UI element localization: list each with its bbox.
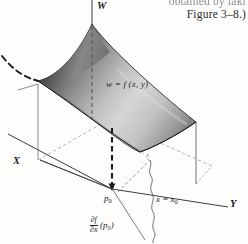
front-base-left-edge — [40, 160, 112, 189]
plane-x0-base: x = x — [156, 194, 175, 204]
caption-line-1: obtained by taki — [169, 0, 246, 8]
partial-derivative-numerator: ∂f — [90, 216, 98, 224]
partial-derivative-figure — [0, 0, 248, 244]
partial-derivative-fraction: ∂f ∂x — [90, 216, 98, 234]
surface-equation-label: w = f (x, y) — [106, 79, 148, 89]
x-axis-line — [8, 134, 112, 189]
right-drop-line — [196, 122, 212, 184]
partial-derivative-argument: (p₀) — [100, 220, 114, 230]
left-wall-top-edge — [18, 84, 38, 90]
partial-derivative-formula: ∂f ∂x (p₀) — [90, 216, 114, 234]
p0-subscript: 0 — [109, 197, 112, 204]
x-axis — [8, 134, 112, 189]
y-axis — [40, 160, 228, 207]
cutting-plane-region — [112, 158, 196, 240]
plane-x0-label: x = x0 — [156, 194, 178, 204]
partial-derivative-denominator: ∂x — [90, 226, 98, 234]
front-base-edges — [40, 160, 112, 189]
w-axis-label: W — [97, 0, 107, 11]
figure-page: obtained by taki Figure 3–8.) W X Y w = … — [0, 0, 248, 244]
y-axis-label: Y — [230, 198, 237, 209]
base-plane-back-left-edge — [38, 120, 108, 160]
cutting-plane-torn-right-edge — [150, 160, 155, 243]
x-axis-label: X — [13, 155, 20, 166]
caption-block: obtained by taki Figure 3–8.) — [169, 0, 246, 20]
p0-base: p — [104, 193, 109, 203]
right-base-connector — [196, 166, 212, 184]
cutting-plane-top-left-edge — [118, 160, 150, 192]
surface-left-dashed-continuation — [2, 56, 38, 81]
caption-line-2: Figure 3–8.) — [169, 8, 246, 21]
p0-vertical-dashed-line — [109, 128, 116, 191]
plane-x0-subscript: 0 — [175, 198, 178, 205]
dashed-curve-left — [2, 56, 38, 81]
p0-label: p0 — [104, 193, 112, 203]
cutting-plane-left-edge — [113, 190, 145, 240]
